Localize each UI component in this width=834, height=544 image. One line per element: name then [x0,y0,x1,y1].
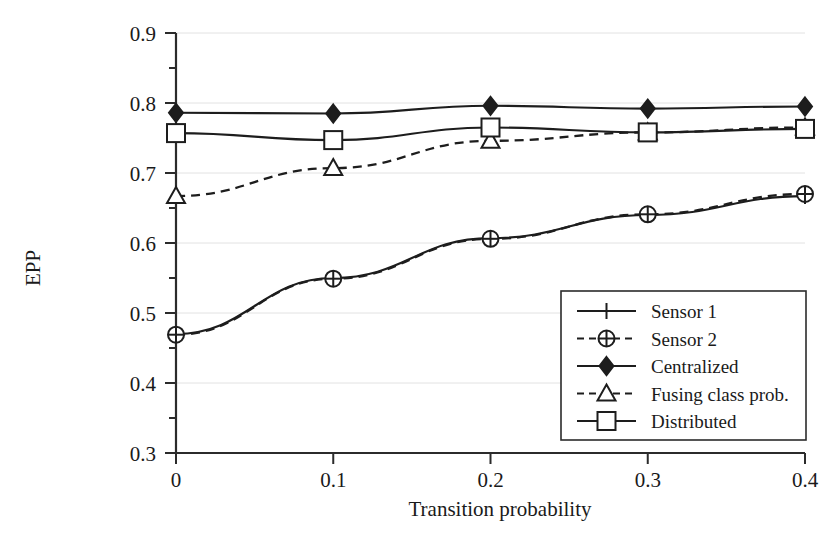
x-axis-ticks [176,453,805,464]
data-point-marker [641,100,655,118]
data-point-marker [169,104,183,122]
data-point-marker [484,97,498,115]
data-point-marker [325,271,341,287]
x-tick-label: 0.1 [320,468,346,492]
x-tick-label: 0.2 [477,468,503,492]
data-point-marker [483,231,499,247]
data-point-marker [797,186,813,202]
y-axis-title: EPP [21,250,45,286]
chart-figure: 0.30.40.50.60.70.80.9 00.10.20.30.4 EPP … [0,0,834,544]
data-point-marker [796,120,814,138]
legend-marker [598,412,616,430]
y-tick-label: 0.6 [130,232,156,256]
legend-marker [599,331,615,347]
data-point-marker [798,98,812,116]
y-tick-label: 0.8 [130,92,156,116]
x-axis-title: Transition probability [409,497,592,521]
line-chart: 0.30.40.50.60.70.80.9 00.10.20.30.4 EPP … [0,0,834,544]
legend-item-label: Centralized [651,356,739,377]
legend-item-distributed[interactable]: Distributed [577,411,737,432]
data-point-marker [324,131,342,149]
y-tick-label: 0.4 [130,372,157,396]
chart-legend: Sensor 1Sensor 2CentralizedFusing class … [561,291,806,440]
y-tick-label: 0.7 [130,162,156,186]
data-point-marker [640,206,656,222]
y-tick-label: 0.9 [130,22,156,46]
data-point-marker [326,105,340,123]
data-point-marker [168,327,184,343]
x-tick-label: 0.4 [792,468,819,492]
x-tick-label: 0.3 [635,468,661,492]
x-tick-label: 0 [171,468,182,492]
x-axis-tick-labels: 00.10.20.30.4 [171,468,819,492]
data-point-marker [167,124,185,142]
y-axis-ticks [165,33,176,453]
y-axis-tick-labels: 0.30.40.50.60.70.80.9 [130,22,157,466]
data-point-marker [639,123,657,141]
legend-item-label: Sensor 1 [651,301,717,322]
legend-item-label: Fusing class prob. [651,384,789,405]
y-tick-label: 0.3 [130,442,156,466]
legend-item-fusing-class-prob[interactable]: Fusing class prob. [577,384,789,405]
legend-item-label: Distributed [651,411,737,432]
y-tick-label: 0.5 [130,302,156,326]
legend-item-label: Sensor 2 [651,329,717,350]
data-point-marker [482,119,500,137]
